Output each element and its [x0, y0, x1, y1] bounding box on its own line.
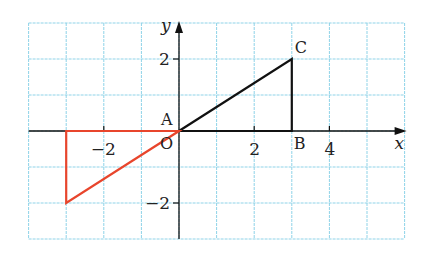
point-label-b: B — [294, 134, 306, 153]
x-tick-label: 2 — [249, 139, 260, 159]
point-label-a: A — [160, 110, 173, 129]
labels: −2242−2xyOABC — [91, 15, 405, 213]
y-tick-label: −2 — [145, 193, 170, 213]
origin-label: O — [160, 134, 173, 153]
x-axis-label: x — [395, 133, 405, 153]
y-axis-label: y — [160, 15, 171, 35]
coordinate-diagram: −2242−2xyOABC — [0, 0, 429, 267]
x-tick-label: −2 — [91, 139, 116, 159]
point-label-c: C — [295, 38, 307, 57]
y-tick-label: 2 — [159, 49, 170, 69]
x-tick-label: 4 — [324, 139, 335, 159]
